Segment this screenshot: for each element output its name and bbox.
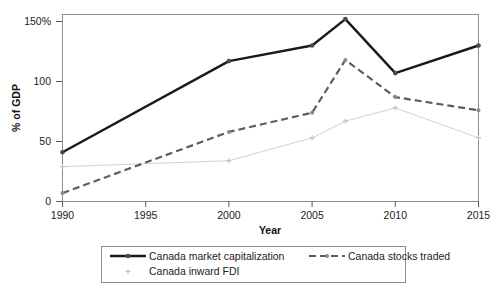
data-point <box>61 191 65 195</box>
series-line-2 <box>63 108 479 167</box>
data-point <box>343 17 348 22</box>
x-tick-label-2015: 2015 <box>467 209 491 221</box>
y-tick-label-0: 0 <box>45 195 51 207</box>
legend-key-marker <box>325 254 329 258</box>
x-tick-label-1990: 1990 <box>51 209 75 221</box>
x-tick-label-2000: 2000 <box>217 209 241 221</box>
x-tick-label-2010: 2010 <box>384 209 408 221</box>
legend-key-marker <box>126 254 131 259</box>
x-tick-label-2005: 2005 <box>300 209 324 221</box>
x-tick-label-1995: 1995 <box>134 209 158 221</box>
data-point <box>343 58 347 62</box>
y-tick-label-150: 150% <box>24 15 51 27</box>
data-point <box>226 158 231 163</box>
data-point <box>60 164 65 169</box>
data-point <box>477 108 481 112</box>
data-point <box>310 111 314 115</box>
legend-label-inward-fdi: Canada inward FDI <box>149 265 239 277</box>
chart-figure: 0 50 100 150% % of GDP 1990 1995 2000 20… <box>0 0 502 299</box>
y-axis-ticks <box>56 22 62 202</box>
series-line-1 <box>63 60 479 193</box>
y-axis-title: % of GDP <box>10 84 22 132</box>
y-tick-label-100: 100 <box>33 75 51 87</box>
data-point <box>393 95 397 99</box>
data-point <box>476 43 481 48</box>
x-axis-ticks <box>63 202 479 208</box>
series-line-0 <box>63 19 479 152</box>
data-point <box>60 150 65 155</box>
data-point <box>476 135 481 140</box>
line-chart: 0 50 100 150% % of GDP 1990 1995 2000 20… <box>0 0 502 299</box>
plot-frame <box>63 15 479 202</box>
x-axis-title: Year <box>259 224 281 236</box>
data-point <box>227 59 232 64</box>
legend-label-stocks-traded: Canada stocks traded <box>348 250 450 262</box>
data-point <box>393 71 398 76</box>
data-point <box>310 135 315 140</box>
data-point <box>310 43 315 48</box>
data-point <box>343 119 348 124</box>
legend-label-market-capitalization: Canada market capitalization <box>149 250 285 262</box>
data-point <box>393 105 398 110</box>
data-point <box>227 130 231 134</box>
series-layer <box>60 17 481 195</box>
y-tick-label-50: 50 <box>39 135 51 147</box>
